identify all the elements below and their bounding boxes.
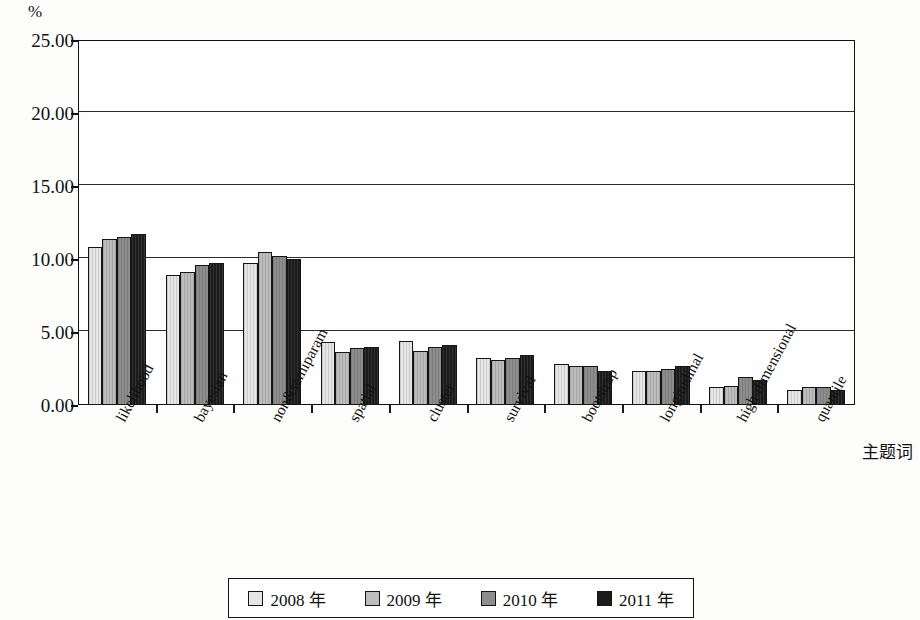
y-tick-label-20.00: 20.00 [4,104,74,123]
bar-survival-2009年[interactable] [491,360,506,405]
y-axis-tick-labels: 0.005.0010.0015.0020.0025.00 [0,0,74,620]
legend-swatch-icon [481,591,496,606]
y-tick-label-5.00: 5.00 [4,323,74,342]
y-tick-label-0.00: 0.00 [4,396,74,415]
bar-spatial-2009年[interactable] [335,352,350,405]
bar-survival-2008年[interactable] [476,358,491,405]
y-tick-mark [71,259,78,261]
legend-swatch-icon [365,591,380,606]
legend-item-2010年[interactable]: 2010 年 [481,586,558,611]
legend-label: 2009 年 [387,586,442,611]
legend-swatch-icon [597,591,612,606]
legend-item-2009年[interactable]: 2009 年 [365,586,442,611]
y-tick-mark [71,186,78,188]
legend-label: 2010 年 [503,586,558,611]
legend-label: 2008 年 [270,586,325,611]
bar-series-layer [78,40,855,405]
bar-bayesian-2008年[interactable] [166,275,181,405]
x-tick-mark [700,405,702,413]
chart-canvas: % 0.005.0010.0015.0020.0025.00 likelihoo… [0,0,920,620]
bar-cluster-2009年[interactable] [413,351,428,405]
y-tick-mark [71,405,78,407]
y-tick-label-25.00: 25.00 [4,31,74,50]
x-tick-mark [389,405,391,413]
bar-longitudinal-2008年[interactable] [632,371,647,405]
bar-non&semiparam-2008年[interactable] [243,263,258,405]
y-tick-label-15.00: 15.00 [4,177,74,196]
x-axis-title: 主题词 [862,438,913,463]
bar-likelihood-2008年[interactable] [88,247,103,405]
legend-label: 2011 年 [619,586,674,611]
x-tick-mark [622,405,624,413]
legend-item-2008年[interactable]: 2008 年 [248,586,325,611]
bar-likelihood-2009年[interactable] [102,239,117,405]
bar-likelihood-2010年[interactable] [117,237,132,405]
bar-cluster-2008年[interactable] [399,341,414,405]
x-tick-mark [467,405,469,413]
bar-spatial-2008年[interactable] [321,342,336,405]
x-tick-mark [156,405,158,413]
bar-bootstrap-2009年[interactable] [569,366,584,405]
y-tick-label-10.00: 10.00 [4,250,74,269]
bar-high-dimensional-2008年[interactable] [709,387,724,405]
x-tick-mark [544,405,546,413]
x-tick-mark [233,405,235,413]
legend-swatch-icon [248,591,263,606]
bar-bayesian-2009年[interactable] [180,272,195,405]
y-tick-mark [71,40,78,42]
y-tick-mark [71,113,78,115]
y-tick-mark [71,332,78,334]
x-tick-mark [777,405,779,413]
bar-quantile-2009年[interactable] [802,387,817,405]
bar-high-dimensional-2009年[interactable] [724,386,739,405]
bar-longitudinal-2009年[interactable] [646,371,661,405]
x-tick-mark [311,405,313,413]
legend-item-2011年[interactable]: 2011 年 [597,586,674,611]
chart-legend: 2008 年2009 年2010 年2011 年 [228,578,694,618]
bar-non&semiparam-2009年[interactable] [258,252,273,405]
bar-bootstrap-2008年[interactable] [554,364,569,405]
bar-quantile-2008年[interactable] [787,390,802,405]
